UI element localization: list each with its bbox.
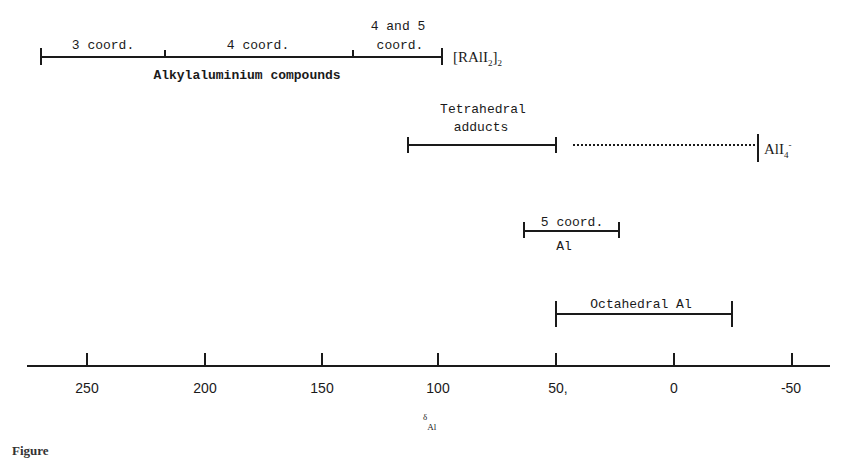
figure-caption-cropped: Figure: [12, 443, 49, 459]
axis-tick-150: [321, 353, 323, 366]
octahedral-end-tick: [731, 301, 733, 327]
label-ali4-anion: AlI4-: [764, 138, 792, 162]
alkyl-range-start-tick: [40, 48, 42, 65]
axis-tick-minus-50: [791, 353, 793, 366]
label-tetrahedral-line2: adducts: [454, 121, 509, 135]
alkyl-range-divider-3-4: [164, 50, 166, 58]
label-4-coord: 4 coord.: [227, 39, 289, 53]
axis-label-100: 100: [426, 380, 449, 396]
tetrahedral-range-line: [408, 144, 556, 146]
label-3-coord: 3 coord.: [72, 39, 134, 53]
axis-label-200: 200: [193, 380, 216, 396]
label-4-and-5-line1: 4 and 5: [371, 20, 426, 34]
label-tetrahedral-line1: Tetrahedral: [440, 103, 526, 117]
axis-tick-250: [86, 353, 88, 366]
axis-tick-50: [555, 353, 557, 366]
axis-label-0: 0: [670, 380, 678, 396]
ali4-subscript: 4: [784, 150, 789, 160]
alkyl-range-line: [41, 56, 443, 58]
alkyl-range-divider-4-5: [352, 50, 354, 58]
label-alkylaluminium-compounds: Alkylaluminium compounds: [153, 69, 340, 83]
octahedral-range-line: [556, 313, 733, 315]
delta-subscript-al: Al: [427, 422, 436, 432]
ral-formula: [RAlI: [453, 49, 488, 65]
delta-symbol: δ: [423, 412, 427, 422]
tetrahedral-dotted-extension: [573, 144, 755, 146]
five-coord-start-tick: [523, 222, 525, 238]
label-4-and-5-line2: coord.: [377, 39, 424, 53]
label-5-coord: 5 coord.: [541, 216, 603, 230]
ali4-formula: AlI: [764, 141, 784, 157]
axis-label-minus-50: -50: [781, 380, 801, 396]
label-octahedral-al: Octahedral Al: [590, 298, 691, 312]
axis-tick-0: [673, 353, 675, 366]
five-coord-range-line: [524, 230, 619, 232]
axis-tick-200: [204, 353, 206, 366]
octahedral-start-tick: [555, 301, 557, 327]
five-coord-end-tick: [618, 222, 620, 238]
axis-label-150: 150: [310, 380, 333, 396]
axis-label-250: 250: [75, 380, 98, 396]
alkyl-range-end-tick: [441, 48, 443, 65]
axis-line: [27, 365, 830, 367]
axis-tick-100: [437, 353, 439, 366]
axis-label-50: 50,: [548, 380, 567, 396]
axis-title-delta-al: δAl: [423, 410, 436, 434]
ali4-charge: -: [789, 140, 792, 150]
tetrahedral-end-tick: [555, 137, 557, 153]
ral-subscript-2: 2: [498, 58, 503, 68]
label-5-coord-al: Al: [556, 240, 572, 254]
label-ralI2-dimer: [RAlI2]2: [453, 50, 502, 70]
ali4-tick: [757, 134, 759, 162]
tetrahedral-start-tick: [407, 137, 409, 153]
